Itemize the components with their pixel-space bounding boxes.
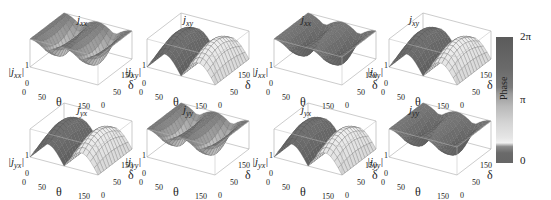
surface-plot-xx-3: |jxx|10050150θ050150δ [252,15,382,110]
colorbar-tick-0: 0 [520,154,526,166]
theta-tick-0: 0 [266,88,270,97]
theta-tick-50: 50 [155,183,163,192]
z-tick-1: 1 [142,151,146,160]
delta-tick-50: 50 [472,88,480,97]
panel-title-xx: jxx [77,13,87,28]
delta-tick-0: 0 [345,191,349,200]
z-tick-0: 0 [384,79,388,88]
colorbar-tick-2pi: 2π [520,30,531,42]
z-tick-1: 1 [269,61,273,70]
delta-tick-50: 50 [357,88,365,97]
z-axis-label: |jxx| [8,65,24,80]
theta-axis-label: θ [300,185,306,200]
z-axis-label: |jyy| [125,155,141,170]
delta-tick-50: 50 [113,88,121,97]
delta-tick-50: 50 [357,178,365,187]
panel-title-xy: jxy [183,13,193,28]
z-tick-0: 0 [269,169,273,178]
panel-title-yx: jyx [77,103,87,118]
theta-tick-0: 0 [22,178,26,187]
theta-axis-label: θ [173,185,179,200]
theta-tick-50: 50 [282,183,290,192]
theta-tick-0: 0 [22,88,26,97]
theta-tick-50: 50 [38,183,46,192]
theta-tick-0: 0 [381,178,385,187]
z-tick-1: 1 [384,61,388,70]
delta-tick-50: 50 [113,178,121,187]
z-tick-0: 0 [25,79,29,88]
surface-plot-xx-1: |jxx|10050150θ050150δ [8,15,138,110]
panel-title-xx: jxx [301,13,311,28]
panel-title-yx: jyx [301,103,311,118]
delta-axis-label: δ [245,78,251,93]
z-tick-0: 0 [142,79,146,88]
surface-plot-yx-7: |jyx|10050150θ050150δ [252,105,382,200]
z-axis-label: |jyx| [252,155,268,170]
theta-tick-0: 0 [381,88,385,97]
z-axis-label: |jxy| [125,65,141,80]
z-axis-label: |jxx| [252,65,268,80]
panel-title-xy: jxy [409,13,419,28]
z-axis-label: |jyx| [8,155,24,170]
z-tick-0: 0 [142,169,146,178]
surface-plot-yy-8: |jyy|10050150θ050150δ [367,105,497,200]
panel-title-yy: jyy [409,103,419,118]
figure: |jxx|10050150θ050150δjxx|jxy|10050150θ05… [0,0,551,200]
delta-tick-0: 0 [101,191,105,200]
theta-tick-150: 150 [78,192,90,200]
z-tick-0: 0 [384,169,388,178]
delta-tick-50: 50 [230,178,238,187]
phase-colorbar [496,37,513,163]
theta-tick-150: 150 [322,192,334,200]
z-axis-label: |jyy| [367,155,383,170]
delta-tick-50: 50 [472,178,480,187]
surface-plot-yy-6: |jyy|10050150θ050150δ [125,105,255,200]
panel-title-yy: jyy [183,103,193,118]
delta-tick-0: 0 [218,191,222,200]
theta-tick-0: 0 [266,178,270,187]
theta-tick-50: 50 [397,93,405,102]
theta-tick-0: 0 [139,88,143,97]
z-tick-1: 1 [384,151,388,160]
surface-plot-yx-5: |jyx|10050150θ050150δ [8,105,138,200]
theta-tick-50: 50 [38,93,46,102]
z-tick-1: 1 [269,151,273,160]
theta-tick-150: 150 [195,192,207,200]
z-tick-1: 1 [25,151,29,160]
colorbar-tick-pi: π [520,93,526,105]
surface-plot-xy-2: |jxy|10050150θ050150δ [125,15,255,110]
delta-axis-label: δ [487,78,493,93]
theta-tick-50: 50 [155,93,163,102]
delta-tick-0: 0 [460,191,464,200]
theta-tick-50: 50 [397,183,405,192]
delta-tick-50: 50 [230,88,238,97]
z-axis-label: |jxy| [367,65,383,80]
theta-tick-0: 0 [139,178,143,187]
z-tick-1: 1 [142,61,146,70]
delta-axis-label: δ [487,168,493,183]
z-tick-0: 0 [25,169,29,178]
delta-axis-label: δ [245,168,251,183]
z-tick-1: 1 [25,61,29,70]
theta-axis-label: θ [415,185,421,200]
z-tick-0: 0 [269,79,273,88]
surface-plot-xy-4: |jxy|10050150θ050150δ [367,15,497,110]
colorbar-label: Phase [498,77,509,100]
theta-axis-label: θ [56,185,62,200]
theta-tick-50: 50 [282,93,290,102]
theta-tick-150: 150 [437,192,449,200]
